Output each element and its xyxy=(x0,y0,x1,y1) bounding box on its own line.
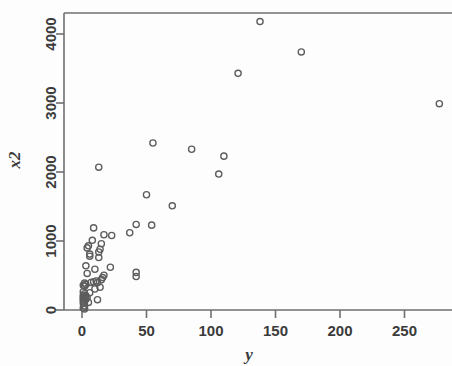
data-point xyxy=(83,263,89,269)
y-tick-label: 1000 xyxy=(42,224,59,257)
data-point xyxy=(94,297,100,303)
data-point xyxy=(92,266,98,272)
data-point xyxy=(221,153,227,159)
x-tick-label: 100 xyxy=(198,322,223,339)
data-point xyxy=(101,232,107,238)
scatter-plot-figure: 050100150200250 01000200030004000 y x2 xyxy=(0,0,452,366)
x-tick-label: 250 xyxy=(392,322,417,339)
x-tick-label: 0 xyxy=(78,322,86,339)
data-point xyxy=(149,222,155,228)
data-point xyxy=(169,203,175,209)
data-point xyxy=(96,164,102,170)
data-point xyxy=(133,221,139,227)
plot-canvas: 050100150200250 01000200030004000 y x2 xyxy=(0,0,452,366)
y-tick-label: 2000 xyxy=(42,155,59,188)
x-axis-title: y xyxy=(243,345,253,364)
data-point xyxy=(235,70,241,76)
data-point xyxy=(84,270,90,276)
data-points xyxy=(80,18,442,312)
y-tick-label: 4000 xyxy=(42,17,59,50)
data-point xyxy=(133,273,139,279)
y-axis-title: x2 xyxy=(5,151,24,170)
data-point xyxy=(143,192,149,198)
x-tick-label: 50 xyxy=(138,322,155,339)
data-point xyxy=(436,101,442,107)
data-point xyxy=(257,18,263,24)
y-axis-tick-labels: 01000200030004000 xyxy=(42,17,59,314)
plot-frame xyxy=(64,13,452,310)
y-tick-label: 3000 xyxy=(42,86,59,119)
data-point xyxy=(189,146,195,152)
data-point xyxy=(109,232,115,238)
data-point xyxy=(216,171,222,177)
x-axis-ticks xyxy=(82,310,405,318)
x-tick-label: 150 xyxy=(263,322,288,339)
data-point xyxy=(150,140,156,146)
data-point xyxy=(91,225,97,231)
x-tick-label: 200 xyxy=(327,322,352,339)
x-axis-tick-labels: 050100150200250 xyxy=(78,322,417,339)
data-point xyxy=(127,230,133,236)
data-point xyxy=(107,264,113,270)
y-tick-label: 0 xyxy=(42,306,59,314)
data-point xyxy=(298,49,304,55)
